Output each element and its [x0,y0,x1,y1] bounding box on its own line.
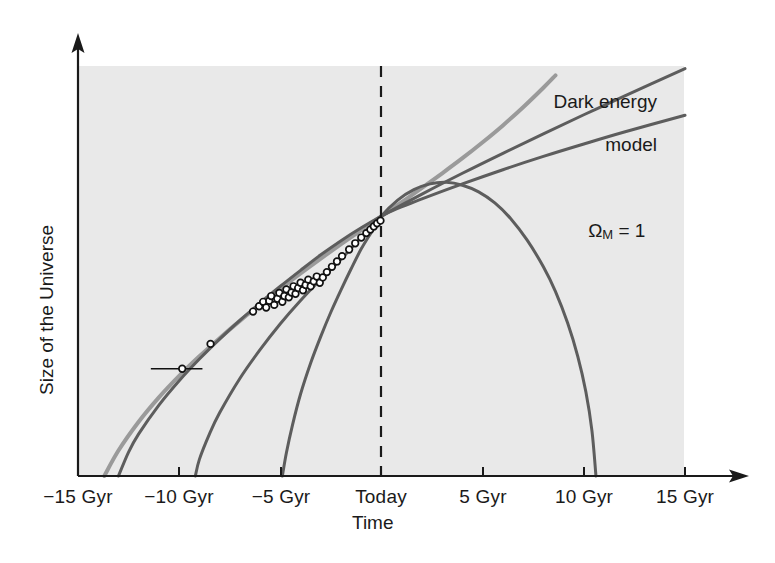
y-axis-title: Size of the Universe [36,225,58,395]
x-tick-label-2: −5 Gyr [252,486,311,508]
data-point [346,246,353,253]
dark-energy-model-line1: Dark energy [554,91,658,112]
omega-equals-one: = 1 [613,220,645,241]
cosmology-expansion-chart: −15 Gyr−10 Gyr−5 GyrToday5 Gyr10 Gyr15 G… [0,0,775,563]
data-point [179,365,186,372]
data-point [250,308,257,315]
omega-subscript-m: M [602,228,613,243]
x-tick-label-3: Today [355,486,407,508]
data-point [207,341,214,348]
x-axis-title: Time [352,512,394,534]
x-tick-label-4: 5 Gyr [459,486,506,508]
omega-symbol: Ω [588,220,602,241]
dark-energy-model-line2: model [605,134,657,155]
data-point [377,217,384,224]
data-point [352,240,359,247]
x-tick-label-6: 15 Gyr [656,486,714,508]
data-point [339,253,346,260]
dark-energy-model-label: Dark energy model [460,70,657,176]
x-tick-label-1: −10 Gyr [144,486,214,508]
x-tick-label-0: −15 Gyr [43,486,113,508]
data-point [263,304,270,311]
x-tick-label-5: 10 Gyr [555,486,613,508]
chart-canvas [0,0,775,563]
omega-m-label: ΩM = 1 [567,199,645,264]
